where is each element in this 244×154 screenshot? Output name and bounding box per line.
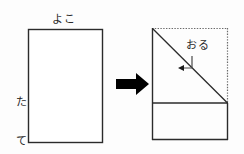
original-rectangle-group bbox=[29, 30, 103, 143]
label-oru: おる bbox=[186, 39, 209, 52]
fold-leader-arrowhead bbox=[178, 65, 184, 71]
transform-arrow-icon bbox=[116, 73, 149, 95]
original-rectangle bbox=[29, 30, 103, 143]
label-tate-char-2: て bbox=[14, 135, 28, 148]
label-yoko: よこ bbox=[52, 13, 75, 26]
diagram-canvas: よこ た て おる bbox=[0, 0, 244, 154]
label-tate: た て bbox=[14, 70, 28, 154]
transform-arrow-group bbox=[116, 73, 149, 95]
diagram-vector-layer bbox=[0, 0, 244, 154]
label-tate-char-1: た bbox=[14, 96, 28, 109]
